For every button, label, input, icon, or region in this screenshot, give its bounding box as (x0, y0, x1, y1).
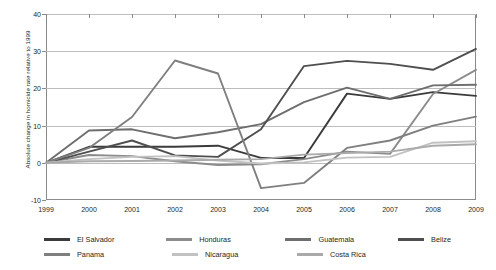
y-axis-title: Absolute change in homicide rate relativ… (24, 15, 31, 185)
legend-label: Costa Rica (330, 250, 366, 259)
x-tick-label: 2003 (210, 206, 226, 213)
x-tick-label: 2002 (167, 206, 183, 213)
legend-label: Belize (431, 235, 451, 244)
legend-swatch-icon (166, 238, 192, 241)
legend-row: PanamaNicaraguaCosta Rica (44, 247, 484, 262)
chart-legend: El SalvadorHondurasGuatemalaBelizePanama… (44, 232, 484, 262)
series-line-el-salvador (46, 92, 476, 163)
x-tick-mark (476, 14, 477, 18)
y-tick-label: 0 (37, 159, 41, 166)
legend-item-honduras[interactable]: Honduras (166, 235, 285, 244)
legend-swatch-icon (285, 238, 311, 241)
x-tick-label: 2004 (253, 206, 269, 213)
y-tick-label: -10 (31, 197, 41, 204)
x-tick-label: 2001 (124, 206, 140, 213)
chart-root: Absolute change in homicide rate relativ… (0, 0, 496, 270)
series-lines (46, 14, 476, 200)
plot-area: 403020100-10 199920002001200220032004200… (46, 14, 476, 200)
x-tick-label: 1999 (38, 206, 54, 213)
legend-swatch-icon (398, 238, 424, 241)
x-tick-label: 2007 (382, 206, 398, 213)
legend-row: El SalvadorHondurasGuatemalaBelize (44, 232, 484, 247)
legend-swatch-icon (44, 253, 70, 256)
legend-swatch-icon (44, 238, 70, 241)
x-tick-label: 2008 (425, 206, 441, 213)
y-tick-label: 40 (33, 11, 41, 18)
y-tick-label: 30 (33, 48, 41, 55)
legend-swatch-icon (297, 253, 323, 256)
x-tick-label: 2009 (468, 206, 484, 213)
legend-item-nicaragua[interactable]: Nicaragua (172, 250, 297, 259)
legend-label: Guatemala (318, 235, 354, 244)
y-tick-label: 20 (33, 85, 41, 92)
legend-label: Honduras (199, 235, 231, 244)
legend-item-guatemala[interactable]: Guatemala (285, 235, 398, 244)
x-tick-label: 2000 (81, 206, 97, 213)
legend-item-el-salvador[interactable]: El Salvador (44, 235, 166, 244)
legend-item-costa-rica[interactable]: Costa Rica (297, 250, 415, 259)
legend-label: Panama (77, 250, 104, 259)
y-tick-mark (42, 200, 46, 201)
legend-label: Nicaragua (205, 250, 238, 259)
legend-swatch-icon (172, 253, 198, 256)
legend-item-panama[interactable]: Panama (44, 250, 172, 259)
series-line-belize (46, 49, 476, 163)
x-tick-label: 2006 (339, 206, 355, 213)
legend-item-belize[interactable]: Belize (398, 235, 484, 244)
x-tick-label: 2005 (296, 206, 312, 213)
y-tick-label: 10 (33, 122, 41, 129)
legend-label: El Salvador (77, 235, 114, 244)
